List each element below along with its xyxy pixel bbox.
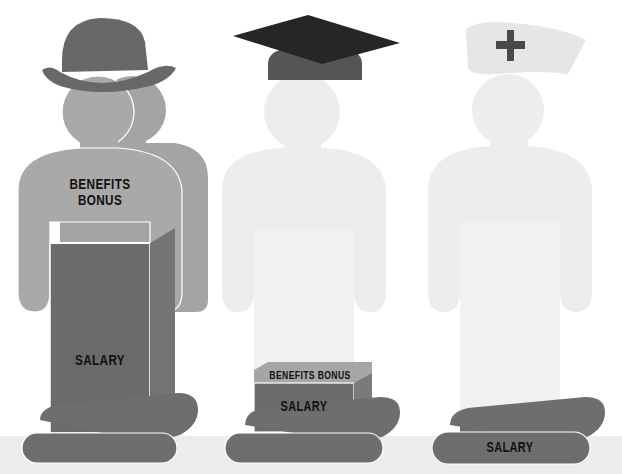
- column-3: [460, 222, 560, 432]
- label-bonus-line2: BONUS: [61, 192, 139, 208]
- figure-businessman: [18, 18, 208, 463]
- base-2: [225, 433, 383, 463]
- label-benefits-line1: BENEFITS: [61, 176, 139, 192]
- mortarboard-icon: [233, 15, 400, 80]
- infographic: BENEFITS BONUS SALARY BENEFITS BONUS SAL…: [0, 0, 622, 474]
- label-salary-1: SALARY: [61, 352, 139, 368]
- nurse-cap-icon: [466, 22, 586, 74]
- label-benefits-2: BENEFITS BONUS: [263, 370, 357, 382]
- label-benefits-1: BENEFITS BONUS: [61, 176, 139, 208]
- figure-nurse: [428, 22, 605, 464]
- label-salary-2: SALARY: [265, 399, 343, 414]
- figure-graduate: [222, 15, 400, 463]
- base-1: [22, 433, 177, 463]
- label-salary-3: SALARY: [471, 440, 549, 455]
